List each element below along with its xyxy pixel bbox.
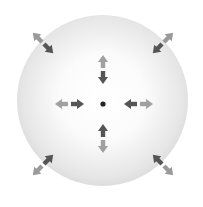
arrows-overlay bbox=[0, 0, 203, 207]
bottom-right-dark-arrow bbox=[149, 151, 165, 167]
bottom-right-light-arrow bbox=[160, 162, 176, 178]
bottom-left-dark-arrow bbox=[40, 151, 56, 167]
inner-left-dark-arrow bbox=[71, 99, 84, 109]
inner-right-light-arrow bbox=[140, 99, 153, 109]
inner-bottom-light-arrow bbox=[98, 140, 108, 153]
center-dot bbox=[100, 101, 105, 106]
top-right-light-arrow bbox=[160, 29, 176, 45]
inner-right-dark-arrow bbox=[124, 99, 137, 109]
top-right-dark-arrow bbox=[149, 40, 165, 56]
inner-bottom-dark-arrow bbox=[98, 124, 108, 137]
inner-top-dark-arrow bbox=[98, 71, 108, 84]
inner-top-light-arrow bbox=[98, 55, 108, 68]
bottom-left-light-arrow bbox=[29, 162, 45, 178]
top-left-light-arrow bbox=[29, 29, 45, 45]
inner-left-light-arrow bbox=[55, 99, 68, 109]
top-left-dark-arrow bbox=[40, 40, 56, 56]
